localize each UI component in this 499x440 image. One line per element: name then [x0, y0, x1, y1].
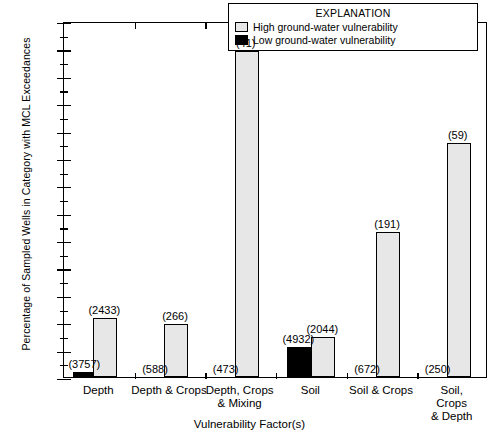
bar-high-vulnerability	[447, 143, 471, 377]
x-category-label: Depth	[83, 384, 114, 397]
legend-swatch-high	[235, 22, 248, 32]
legend-title: EXPLANATION	[235, 7, 471, 19]
legend-item-label: Low ground-water vulnerability	[253, 34, 395, 46]
bar-count-label-low: (250)	[425, 363, 451, 375]
bar-count-label-low: (672)	[354, 363, 380, 375]
x-category-label: Soil & Crops	[349, 384, 413, 397]
x-category-label: Soil	[301, 384, 320, 397]
bar-count-label-high: (2433)	[88, 304, 120, 316]
bar-count-label-high: (59)	[448, 129, 468, 141]
bar-high-vulnerability	[376, 232, 400, 377]
bar-low-vulnerability	[287, 347, 311, 377]
x-category-label: Depth, Crops & Mixing	[206, 384, 274, 410]
bar-count-label-low: (588)	[142, 363, 168, 375]
legend-items: High ground-water vulnerabilityLow groun…	[235, 21, 471, 46]
bar-count-label-high: (41)	[236, 37, 256, 49]
legend-item: Low ground-water vulnerability	[235, 34, 471, 46]
x-category-label: Depth & Crops	[131, 384, 206, 397]
bar-high-vulnerability	[235, 51, 259, 377]
x-axis-title: Vulnerability Factor(s)	[0, 418, 499, 430]
bar-count-label-low: (473)	[213, 363, 239, 375]
plot-area	[63, 22, 487, 378]
bar-high-vulnerability	[311, 337, 335, 377]
bar-count-label-low: (3757)	[68, 358, 100, 370]
y-axis-title: Percentage of Sampled Wells in Category …	[20, 14, 32, 374]
bar-count-label-high: (2044)	[306, 323, 338, 335]
legend-item-label: High ground-water vulnerability	[253, 21, 398, 33]
bar-count-label-high: (266)	[162, 310, 188, 322]
plot-inner	[64, 23, 486, 377]
legend-item: High ground-water vulnerability	[235, 21, 471, 33]
bar-count-label-high: (191)	[374, 218, 400, 230]
bar-chart-figure: Percentage of Sampled Wells in Category …	[0, 0, 499, 440]
legend: EXPLANATION High ground-water vulnerabil…	[228, 3, 478, 51]
